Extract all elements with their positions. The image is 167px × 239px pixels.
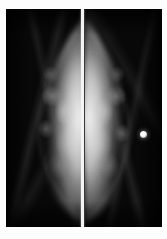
panel-divider — [81, 9, 84, 227]
film-grain — [6, 9, 162, 227]
mammogram-figure — [0, 0, 167, 239]
film-plate — [6, 9, 162, 227]
radiopaque-marker-icon[interactable] — [140, 131, 147, 138]
